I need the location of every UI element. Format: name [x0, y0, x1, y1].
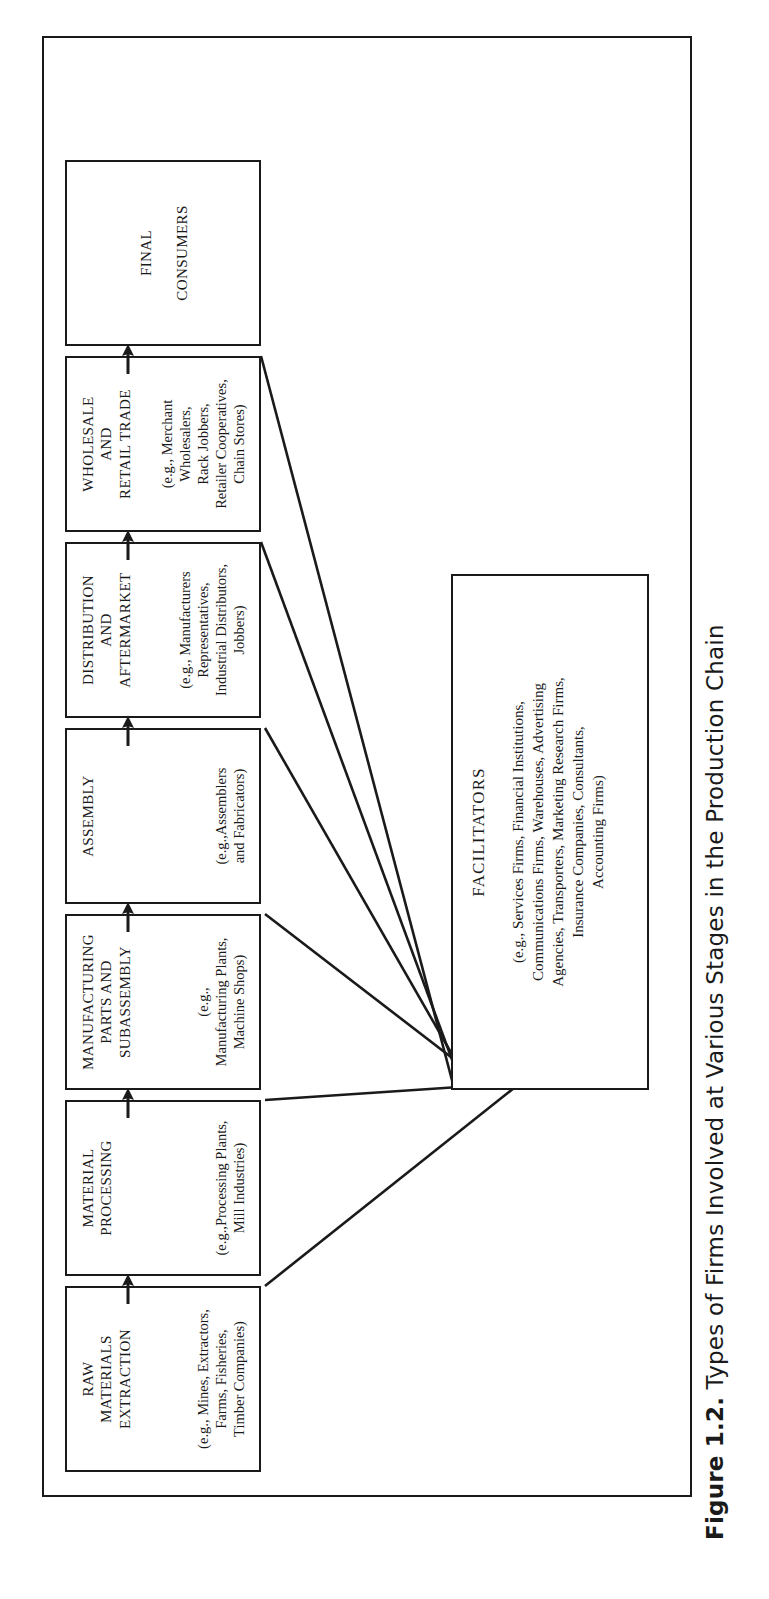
facilitators-title: FACILITATORS	[469, 767, 489, 896]
stage-box-final-consumers[interactable]: FINAL CONSUMERS	[65, 160, 261, 346]
production-chain-diagram: RAW MATERIALS EXTRACTION (e.g., Mines, E…	[49, 52, 685, 1482]
connector-line-wholesale-and-retail-trade	[261, 356, 453, 1084]
facilitators-examples: (e.g., Services Firms, Financial Institu…	[509, 677, 609, 987]
figure-caption: Figure 1.2. Types of Firms Involved at V…	[702, 120, 728, 1540]
stage-examples-assembly: (e.g.,Assemblers and Fabricators)	[213, 767, 249, 864]
stage-title-assembly: ASSEMBLY	[79, 775, 97, 857]
stage-examples-distribution-and-aftermarket: (e.g., Manufacturers Representatives, In…	[177, 563, 249, 695]
stage-box-distribution-and-aftermarket[interactable]: DISTRIBUTION AND AFTERMARKET (e.g., Manu…	[65, 542, 261, 718]
figure-caption-label: Figure 1.2.	[702, 1397, 728, 1540]
arrow-up-icon	[115, 1086, 141, 1120]
arrow-up-icon	[115, 714, 141, 748]
stage-title-raw-materials-extraction: RAW MATERIALS EXTRACTION	[79, 1329, 134, 1429]
arrow-up-icon	[115, 528, 141, 562]
arrow-up-icon	[115, 900, 141, 934]
stage-title-material-processing: MATERIAL PROCESSING	[79, 1140, 116, 1236]
stage-examples-manufacturing-parts-and-subassembly: (e.g., Manufacturing Plants, Machine Sho…	[195, 937, 249, 1066]
stage-box-manufacturing-parts-and-subassembly[interactable]: MANUFACTURING PARTS AND SUBASSEMBLY (e.g…	[65, 914, 261, 1090]
figure-border: RAW MATERIALS EXTRACTION (e.g., Mines, E…	[42, 36, 692, 1497]
arrow-up-icon	[115, 342, 141, 376]
stage-title-distribution-and-aftermarket: DISTRIBUTION AND AFTERMARKET	[79, 572, 134, 687]
stage-examples-material-processing: (e.g.,Processing Plants, Mill Industries…	[213, 1120, 249, 1255]
stage-title-manufacturing-parts-and-subassembly: MANUFACTURING PARTS AND SUBASSEMBLY	[79, 934, 134, 1070]
connector-line-assembly	[265, 728, 469, 1084]
connector-line-distribution-and-aftermarket	[261, 542, 461, 1084]
stage-box-material-processing[interactable]: MATERIAL PROCESSING (e.g.,Processing Pla…	[65, 1100, 261, 1276]
figure-caption-text: Types of Firms Involved at Various Stage…	[702, 624, 728, 1389]
stage-box-wholesale-and-retail-trade[interactable]: WHOLESALE AND RETAIL TRADE (e.g., Mercha…	[65, 356, 261, 532]
stage-examples-wholesale-and-retail-trade: (e.g., Merchant Wholesalers, Rack Jobber…	[159, 379, 249, 509]
stage-box-assembly[interactable]: ASSEMBLY (e.g.,Assemblers and Fabricator…	[65, 728, 261, 904]
stage-title-wholesale-and-retail-trade: WHOLESALE AND RETAIL TRADE	[79, 389, 134, 499]
connector-line-raw-materials-extraction	[265, 1084, 519, 1286]
stage-title-final-consumers: FINAL CONSUMERS	[137, 205, 192, 300]
stage-examples-raw-materials-extraction: (e.g., Mines, Extractors, Farms, Fisheri…	[195, 1309, 249, 1449]
facilitators-box[interactable]: FACILITATORS (e.g., Services Firms, Fina…	[451, 574, 649, 1090]
arrow-up-icon	[115, 1272, 141, 1306]
stage-box-raw-materials-extraction[interactable]: RAW MATERIALS EXTRACTION (e.g., Mines, E…	[65, 1286, 261, 1472]
